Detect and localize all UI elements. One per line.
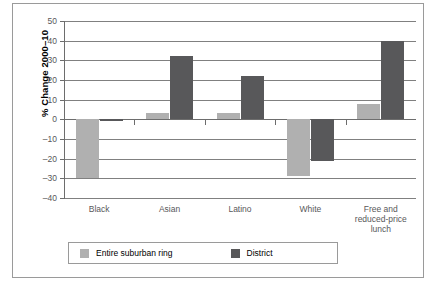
y-tick-label: 10 (48, 95, 57, 105)
legend-label: Entire suburban ring (96, 248, 173, 258)
bar (170, 56, 193, 119)
legend-entry: Entire suburban ring (80, 248, 173, 258)
y-tick-mark-50 (60, 21, 65, 22)
bar (217, 113, 240, 119)
bar (100, 119, 123, 121)
bar (381, 41, 404, 120)
x-tick-mark (64, 119, 65, 125)
x-axis-label-line: reduced-price (346, 214, 416, 224)
chart-figure-frame: % Change 2000–10 50403020100–10–20–30–40… (12, 3, 424, 278)
bar-group (76, 21, 123, 198)
y-tick-mark-40 (60, 41, 65, 42)
y-tick-mark--40 (60, 198, 65, 199)
bar (357, 104, 380, 120)
bar (311, 119, 334, 160)
y-axis-line (64, 21, 65, 198)
y-tick-label: 0 (52, 114, 57, 124)
y-tick-mark--10 (60, 139, 65, 140)
y-tick-label: –10 (43, 134, 57, 144)
x-axis-label: Asian (134, 204, 204, 214)
chart-legend: Entire suburban ringDistrict (68, 242, 338, 264)
plot-area: 50403020100–10–20–30–40 (64, 21, 416, 198)
x-axis-label-line: Latino (205, 204, 275, 214)
legend-swatch (80, 249, 89, 258)
legend-label: District (247, 248, 273, 258)
x-axis-label-line: White (275, 204, 345, 214)
bar-group (146, 21, 193, 198)
x-axis-label: Black (64, 204, 134, 214)
y-tick-mark-20 (60, 80, 65, 81)
x-axis-label-line: Asian (134, 204, 204, 214)
y-tick-label: 20 (48, 75, 57, 85)
x-tick-mark (134, 119, 135, 125)
y-tick-label: –40 (43, 193, 57, 203)
y-tick-mark-10 (60, 100, 65, 101)
x-axis-label: Free andreduced-pricelunch (346, 204, 416, 234)
bar-group (217, 21, 264, 198)
bar (287, 119, 310, 176)
bar-group (357, 21, 404, 198)
legend-swatch (231, 249, 240, 258)
gridline--40 (64, 198, 416, 199)
x-axis-label-line: lunch (346, 224, 416, 234)
legend-entry: District (231, 248, 273, 258)
x-axis-label: White (275, 204, 345, 214)
x-axis-label-line: Black (64, 204, 134, 214)
bar-group (287, 21, 334, 198)
bar (241, 76, 264, 119)
y-tick-label: 50 (48, 16, 57, 26)
y-tick-label: 40 (48, 36, 57, 46)
bar (146, 113, 169, 119)
y-tick-mark-30 (60, 60, 65, 61)
y-tick-mark--30 (60, 178, 65, 179)
x-axis-label-line: Free and (346, 204, 416, 214)
x-axis-label: Latino (205, 204, 275, 214)
y-tick-label: –30 (43, 173, 57, 183)
y-tick-mark--20 (60, 159, 65, 160)
bar (76, 119, 99, 178)
x-tick-mark (346, 119, 347, 125)
x-tick-mark (275, 119, 276, 125)
y-tick-label: 30 (48, 55, 57, 65)
x-tick-mark (205, 119, 206, 125)
y-tick-label: –20 (43, 154, 57, 164)
